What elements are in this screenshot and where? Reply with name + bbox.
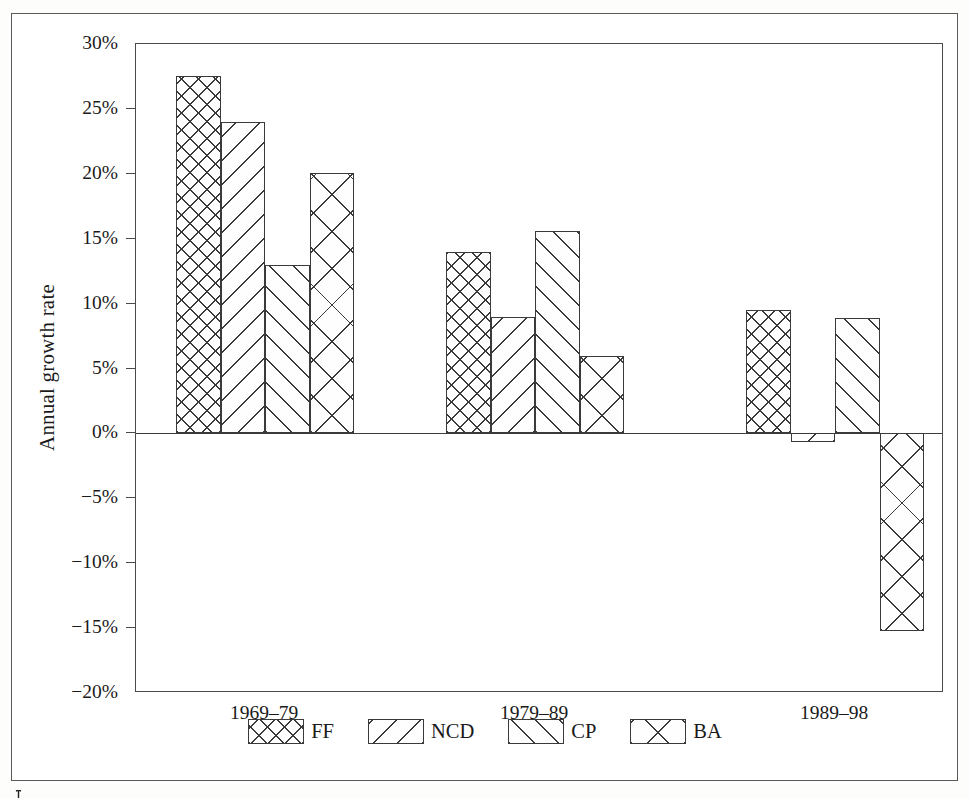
legend-swatch-icon-ncd	[368, 719, 424, 744]
legend-entry-cp[interactable]: CP	[508, 719, 596, 744]
y-axis-tick	[126, 432, 135, 433]
legend-swatch-icon-cp	[508, 719, 564, 744]
bar-ba-1969-79	[310, 173, 355, 434]
y-axis-tick	[126, 627, 135, 628]
y-axis-tick-label: 5%	[0, 358, 118, 378]
y-axis-tick-label: −20%	[0, 682, 118, 702]
bar-cp-1979-89	[535, 231, 580, 433]
y-axis-tick	[126, 303, 135, 304]
y-axis-tick-label: 10%	[0, 293, 118, 313]
legend-label: FF	[311, 721, 334, 742]
y-axis-tick-label: 30%	[0, 33, 118, 53]
bar-ff-1979-89	[446, 252, 491, 434]
legend-swatch-icon-ff	[248, 719, 304, 744]
y-axis-tick-label: 20%	[0, 163, 118, 183]
y-axis-tick	[126, 497, 135, 498]
legend-label: NCD	[431, 721, 474, 742]
y-axis-tick	[126, 108, 135, 109]
bar-ff-1989-98	[746, 310, 791, 433]
legend-entry-ba[interactable]: BA	[630, 719, 721, 744]
legend-entry-ncd[interactable]: NCD	[368, 719, 474, 744]
legend-swatch-icon-ba	[630, 719, 686, 744]
legend-entry-ff[interactable]: FF	[248, 719, 334, 744]
bar-ncd-1989-98	[791, 433, 836, 442]
bar-cp-1989-98	[835, 318, 880, 434]
bar-ba-1979-89	[580, 356, 625, 434]
y-axis-tick-label: 0%	[0, 423, 118, 443]
bar-cp-1969-79	[265, 265, 310, 434]
y-axis-tick-label: 15%	[0, 228, 118, 248]
chart-legend: FFNCDCPBA	[0, 719, 970, 744]
y-axis-tick	[126, 368, 135, 369]
bar-ncd-1969-79	[221, 122, 266, 434]
bar-ncd-1979-89	[491, 317, 536, 434]
y-axis-tick	[126, 238, 135, 239]
legend-label: CP	[571, 721, 596, 742]
y-axis-tick-label: −10%	[0, 552, 118, 572]
registration-mark-icon	[14, 790, 23, 798]
figure: Annual growth rate 30%25%20%15%10%5%0%−5…	[0, 0, 970, 798]
y-axis-tick	[126, 562, 135, 563]
y-axis-tick	[126, 173, 135, 174]
legend-label: BA	[693, 721, 721, 742]
y-axis-tick-label: −5%	[0, 488, 118, 508]
y-axis-tick-label: −15%	[0, 617, 118, 637]
bar-ba-1989-98	[880, 433, 925, 630]
y-axis-tick-label: 25%	[0, 98, 118, 118]
plot-area	[135, 43, 943, 692]
bar-ff-1969-79	[176, 76, 221, 433]
